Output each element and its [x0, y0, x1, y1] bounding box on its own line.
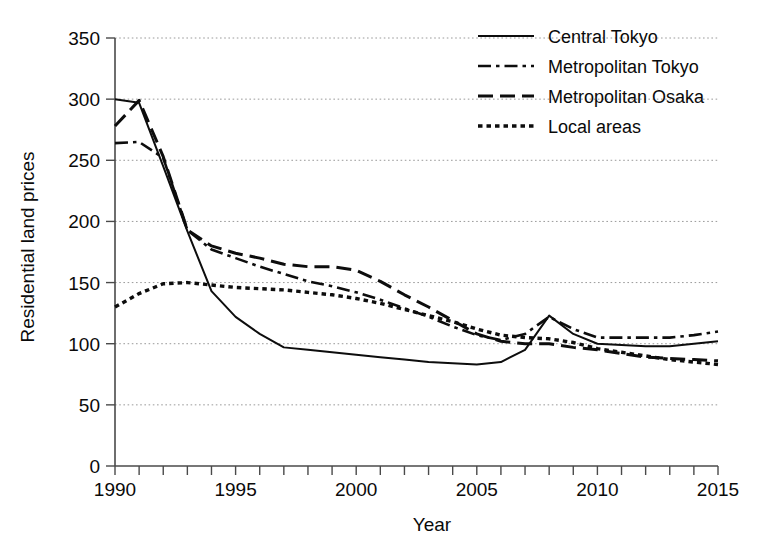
x-tick-label: 1990	[94, 479, 136, 500]
y-tick-label: 150	[68, 273, 100, 294]
x-tick-labels-group: 199019952000200520102015	[94, 479, 739, 500]
legend-label: Local areas	[548, 117, 641, 137]
y-tick-label: 200	[68, 211, 100, 232]
y-tick-label: 0	[89, 456, 100, 477]
y-tick-label: 100	[68, 334, 100, 355]
x-tick-marks-group	[115, 466, 718, 475]
x-tick-label: 1995	[214, 479, 256, 500]
series-line-local-areas	[115, 283, 718, 365]
series-line-metropolitan-tokyo	[115, 142, 718, 340]
y-tick-label: 350	[68, 28, 100, 49]
legend-label: Metropolitan Tokyo	[548, 57, 699, 77]
x-axis-title: Year	[413, 514, 452, 535]
y-tick-label: 250	[68, 150, 100, 171]
chart-container: 199019952000200520102015 050100150200250…	[0, 0, 768, 558]
legend-label: Central Tokyo	[548, 27, 658, 47]
x-tick-label: 2000	[335, 479, 377, 500]
series-line-central-tokyo	[115, 99, 718, 364]
legend-label: Metropolitan Osaka	[548, 87, 705, 107]
y-tick-marks-group	[106, 38, 115, 466]
x-tick-label: 2010	[576, 479, 618, 500]
y-tick-labels-group: 050100150200250300350	[68, 28, 100, 477]
chart-legend: Central TokyoMetropolitan TokyoMetropoli…	[478, 27, 705, 137]
y-tick-label: 300	[68, 89, 100, 110]
x-tick-label: 2015	[697, 479, 739, 500]
y-tick-label: 50	[79, 395, 100, 416]
line-chart: 199019952000200520102015 050100150200250…	[0, 0, 768, 558]
y-axis-title: Residential land prices	[17, 151, 38, 342]
series-line-metropolitan-osaka	[115, 100, 718, 360]
data-series-group	[115, 99, 718, 364]
x-tick-label: 2005	[456, 479, 498, 500]
